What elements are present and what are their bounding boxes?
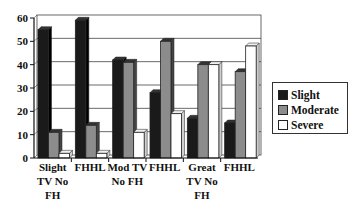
x-category-label: Great [188,161,216,173]
y-tick-label: 30 [17,82,29,94]
bar-severe [246,43,259,158]
legend-item-severe: Severe [278,117,347,132]
bar-severe [171,111,185,158]
legend: Slight Moderate Severe [272,82,348,134]
legend-item-moderate: Moderate [278,102,347,117]
legend-item-slight: Slight [278,87,347,102]
legend-swatch-moderate [278,105,288,115]
y-axis: 0102030405060 [17,12,34,164]
legend-swatch-severe [278,120,288,130]
x-category-label: FHHL [224,161,255,173]
bar-severe [208,62,222,158]
legend-label: Moderate [291,104,339,116]
x-category-label: FHHL [74,161,105,173]
x-category-label: FH [45,189,61,201]
legend-label: Slight [291,89,320,101]
y-tick-label: 0 [23,152,29,164]
bar-severe [134,129,148,158]
x-axis: SlightTV NoFHFHHLMod TVNo FHFHHLGreatTV … [34,158,258,201]
bar-severe [59,150,73,158]
y-tick-label: 40 [17,59,29,71]
legend-label: Severe [291,119,323,131]
bar-severe [96,150,110,158]
x-category-label: No FH [112,175,144,187]
x-category-label: FH [194,189,210,201]
y-tick-label: 10 [17,129,29,141]
x-category-label: TV No [37,175,69,187]
y-tick-label: 60 [17,12,29,24]
x-category-label: TV No [186,175,218,187]
x-category-label: Mod TV [107,161,147,173]
legend-swatch-slight [278,90,288,100]
x-category-label: FHHL [149,161,180,173]
x-category-label: Slight [39,161,67,173]
y-tick-label: 20 [17,105,29,117]
y-tick-label: 50 [17,35,29,47]
